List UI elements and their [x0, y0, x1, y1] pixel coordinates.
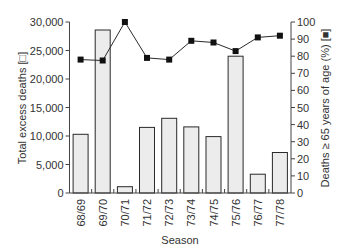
bar-72-73: [162, 118, 177, 193]
left-tick-label: 15,000: [30, 102, 64, 114]
left-tick-label: 10,000: [30, 130, 64, 142]
right-tick-label: 40: [297, 119, 309, 131]
dual-axis-chart: 05,00010,00015,00020,00025,00030,0000102…: [0, 0, 341, 250]
right-tick-label: 100: [297, 16, 315, 28]
right-tick-label: 80: [297, 50, 309, 62]
bar-69-70: [95, 30, 110, 193]
left-tick-label: 25,000: [30, 45, 64, 57]
left-y-axis-label: Total excess deaths [□]: [16, 52, 28, 164]
x-tick-label: 73/74: [185, 199, 197, 227]
right-tick-label: 10: [297, 170, 309, 182]
left-tick-label: 5,000: [36, 159, 64, 171]
square-marker-icon: [166, 57, 172, 63]
right-tick-label: 20: [297, 153, 309, 165]
right-tick-label: 60: [297, 84, 309, 96]
x-tick-label: 76/77: [252, 199, 264, 227]
right-tick-label: 0: [297, 187, 303, 199]
x-tick-label: 71/72: [141, 199, 153, 227]
x-tick-label: 77/78: [274, 199, 286, 227]
square-marker-icon: [211, 40, 217, 46]
chart-container: 05,00010,00015,00020,00025,00030,0000102…: [0, 0, 341, 250]
bar-71-72: [140, 127, 155, 193]
x-tick-label: 70/71: [119, 199, 131, 227]
square-marker-icon: [144, 55, 150, 61]
bar-74-75: [206, 137, 221, 193]
bar-70-71: [117, 187, 132, 193]
right-tick-label: 30: [297, 136, 309, 148]
left-tick-label: 20,000: [30, 73, 64, 85]
right-tick-label: 90: [297, 33, 309, 45]
square-marker-icon: [100, 58, 106, 64]
right-y-axis-label: Deaths ≥ 65 years of age (%) [■]: [319, 29, 331, 188]
right-tick-label: 50: [297, 102, 309, 114]
bar-series: [73, 30, 287, 193]
x-tick-label: 68/69: [75, 199, 87, 227]
left-tick-label: 30,000: [30, 16, 64, 28]
bar-68-69: [73, 134, 88, 193]
bar-76-77: [250, 174, 265, 193]
bar-73-74: [184, 127, 199, 193]
square-marker-icon: [188, 38, 194, 44]
square-marker-icon: [122, 19, 128, 25]
bar-77-78: [272, 153, 287, 194]
x-tick-label: 72/73: [163, 199, 175, 227]
square-marker-icon: [277, 33, 283, 39]
square-marker-icon: [255, 34, 261, 40]
square-marker-icon: [78, 57, 84, 63]
x-tick-label: 75/76: [230, 199, 242, 227]
x-axis-label: Season: [161, 234, 198, 246]
left-tick-label: 0: [57, 187, 63, 199]
x-tick-label: 74/75: [208, 199, 220, 227]
x-tick-label: 69/70: [97, 199, 109, 227]
square-marker-icon: [233, 48, 239, 54]
right-tick-label: 70: [297, 67, 309, 79]
bar-75-76: [228, 56, 243, 193]
